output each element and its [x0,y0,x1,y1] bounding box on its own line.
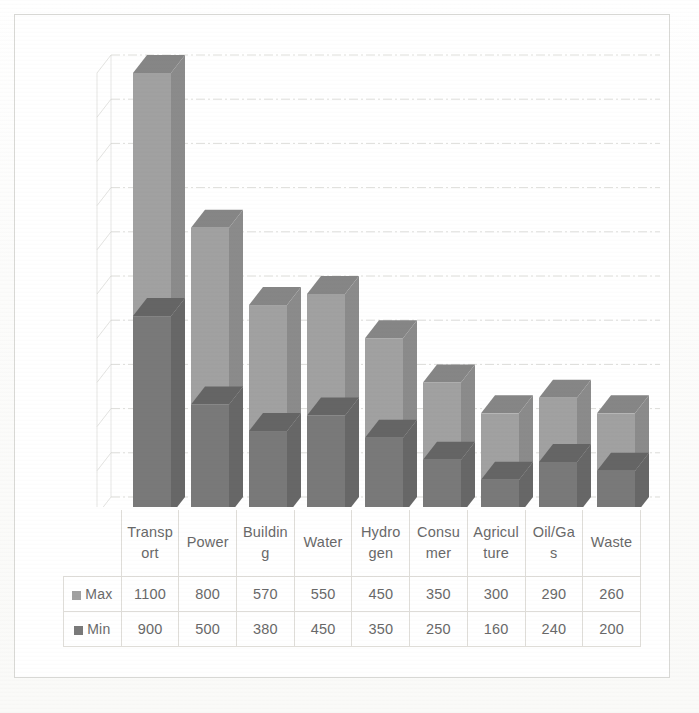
table-cell: 350 [410,577,468,612]
category-label-line2: ort [123,543,178,564]
bar-segment-max [249,287,301,431]
table-cell: 240 [525,612,583,647]
chart-data-table: Transp ort Power Buildin g Water [63,510,641,647]
category-header-cell: Buildin g [237,510,295,577]
table-cell: 290 [525,577,583,612]
category-label-line1: Water [296,532,351,553]
category-label-line1: Agricul [469,522,524,543]
table-cell: 450 [352,577,410,612]
category-label-line1: Buildin [238,522,293,543]
table-cell: 260 [583,577,641,612]
table-cell: 250 [410,612,468,647]
table-cell: 800 [179,577,237,612]
bar-segment-min [191,387,243,508]
legend-label-max: Max [85,586,112,602]
category-label-line1: Transp [123,522,178,543]
min-legend-swatch-icon [74,626,83,635]
category-header-cell: Power [179,510,237,577]
category-label-line1: Waste [584,532,639,553]
table-cell: 500 [179,612,237,647]
legend-corner-cell [64,510,122,577]
plot-area [15,15,671,507]
bars-group [133,55,649,507]
table-row: Max 1100 800 570 550 450 350 300 290 260 [64,577,641,612]
category-label-line2: g [238,543,293,564]
category-label-line2: s [527,543,582,564]
chart-frame: Transp ort Power Buildin g Water [14,14,670,678]
category-header-cell: Water [294,510,352,577]
category-header-cell: Oil/Ga s [525,510,583,577]
legend-cell-min: Min [64,612,122,647]
table-cell: 900 [121,612,179,647]
stacked-column-chart-3d [15,15,671,507]
category-label-line1: Oil/Ga [527,522,582,543]
table-cell: 160 [467,612,525,647]
category-label-line1: Hydro [353,522,408,543]
legend-label-min: Min [87,621,110,637]
category-header-cell: Consu mer [410,510,468,577]
table-row: Min 900 500 380 450 350 250 160 240 200 [64,612,641,647]
category-header-cell: Hydro gen [352,510,410,577]
bar-segment-min [597,453,649,507]
table-cell: 350 [352,612,410,647]
bar-segment-min [423,442,475,507]
category-label-line2: gen [353,543,408,564]
category-header-cell: Waste [583,510,641,577]
bar-segment-min [249,413,301,507]
category-label-line1: Power [180,532,235,553]
bar-segment-min [365,420,417,507]
bar-segment-min [539,444,591,507]
category-label-line2: mer [411,543,466,564]
bar-segment-max [307,276,359,416]
bar-segment-max [133,55,185,316]
legend-cell-max: Max [64,577,122,612]
table-header-row: Transp ort Power Buildin g Water [64,510,641,577]
table-cell: 550 [294,577,352,612]
category-header-cell: Transp ort [121,510,179,577]
table-cell: 380 [237,612,295,647]
table-cell: 570 [237,577,295,612]
table-cell: 450 [294,612,352,647]
axis-depth-lines [97,55,111,507]
category-label-line2: ture [469,543,524,564]
table-cell: 200 [583,612,641,647]
max-legend-swatch-icon [72,591,81,600]
table-cell: 1100 [121,577,179,612]
data-table: Transp ort Power Buildin g Water [63,510,641,647]
bar-segment-max [191,210,243,405]
table-cell: 300 [467,577,525,612]
category-header-cell: Agricul ture [467,510,525,577]
bar-segment-min [307,398,359,507]
bar-segment-min [133,298,185,507]
category-label-line1: Consu [411,522,466,543]
